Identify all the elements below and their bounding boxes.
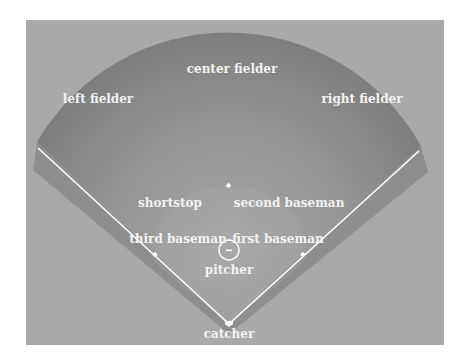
label-shortstop: shortstop: [138, 196, 202, 210]
pitchers-rubber-icon: [226, 250, 232, 252]
label-second-baseman: second baseman: [234, 196, 345, 210]
label-center-fielder: center fielder: [187, 62, 278, 76]
label-left-fielder: left fielder: [63, 92, 134, 106]
label-first-baseman: first baseman: [232, 232, 324, 246]
baseball-field-diagram: center fielder left fielder right fielde…: [0, 0, 463, 364]
label-pitcher: pitcher: [205, 263, 254, 277]
label-third-baseman: third baseman: [129, 232, 227, 246]
label-right-fielder: right fielder: [322, 92, 404, 106]
label-catcher: catcher: [204, 327, 255, 341]
